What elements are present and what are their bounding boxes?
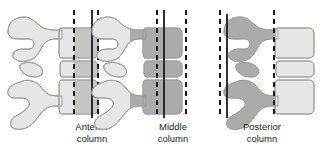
panel-label-middle-line2: column [158,133,189,144]
three-column-spine-figure: Anterior column [0,0,321,148]
panel-middle: Middle column [92,6,189,144]
middle-column-shading [130,6,186,136]
panel-label-posterior-line1: Posterior [243,121,281,132]
posterior-column-shading [212,6,274,136]
panel-label-posterior-line2: column [247,133,278,144]
panel-label-middle-line1: Middle [159,121,187,132]
panel-posterior: Posterior column [212,6,314,144]
panel-label-anterior-line2: column [77,133,108,144]
